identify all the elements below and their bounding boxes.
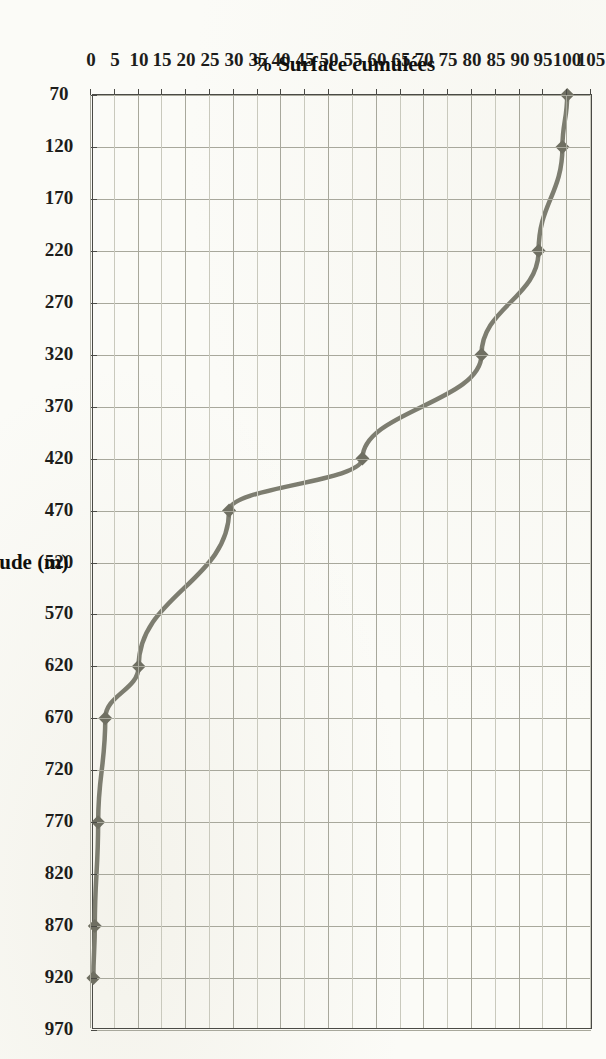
gridline-horizontal [138,95,139,1028]
y-axis-tick [519,89,520,95]
x-tick-label: 220 [33,239,85,261]
x-axis-tick [91,95,97,96]
x-axis-tick [91,199,97,200]
y-axis-tick [161,89,162,95]
x-axis-tick [91,666,97,667]
x-axis-tick [91,822,97,823]
x-axis-title: Altitude (m) [0,549,134,574]
gridline-horizontal [542,95,543,1028]
x-axis-tick [91,718,97,719]
y-axis-tick [185,89,186,95]
y-axis-tick [566,89,567,95]
y-axis-tick [114,89,115,95]
y-tick-label: 105 [569,49,606,71]
x-tick-label: 320 [33,343,85,365]
x-tick-label: 770 [33,810,85,832]
y-axis-tick [280,89,281,95]
gridline-horizontal [185,95,186,1028]
x-axis-tick [91,1030,97,1031]
gridline-vertical [93,718,591,719]
gridline-horizontal [447,95,448,1028]
x-axis-tick [91,614,97,615]
y-axis-tick [447,89,448,95]
gridline-horizontal [233,95,234,1028]
x-tick-label: 370 [33,395,85,417]
series-line [93,95,567,978]
y-axis-tick [90,89,91,95]
y-axis-tick [352,89,353,95]
y-axis-tick [590,89,591,95]
x-tick-label: 570 [33,602,85,624]
x-tick-label: 470 [33,499,85,521]
gridline-horizontal [352,95,353,1028]
y-axis-title: % Surface cumulées [214,52,474,77]
x-tick-label: 970 [33,1018,85,1040]
y-axis-tick [138,89,139,95]
x-axis-tick [91,459,97,460]
rotated-chart-wrapper: 7012017022027032037042047052057062067072… [0,0,606,1059]
y-axis-tick [542,89,543,95]
x-axis-tick [91,407,97,408]
y-axis-tick [233,89,234,95]
x-axis-tick [91,511,97,512]
x-axis-tick [91,926,97,927]
gridline-vertical [93,874,591,875]
x-tick-label: 920 [33,966,85,988]
gridline-vertical [93,199,591,200]
x-tick-label: 70 [33,83,85,105]
gridline-vertical [93,614,591,615]
x-tick-label: 870 [33,914,85,936]
gridline-horizontal [566,95,567,1028]
x-axis-tick [91,770,97,771]
gridline-horizontal [280,95,281,1028]
gridline-horizontal [400,95,401,1028]
x-tick-label: 170 [33,187,85,209]
x-tick-label: 270 [33,291,85,313]
y-axis-tick [209,89,210,95]
y-axis-tick [257,89,258,95]
gridline-horizontal [161,95,162,1028]
gridline-horizontal [304,95,305,1028]
gridline-horizontal [471,95,472,1028]
x-axis-tick [91,251,97,252]
y-axis-tick [328,89,329,95]
gridline-vertical [93,147,591,148]
x-tick-label: 670 [33,706,85,728]
gridline-vertical [93,1030,591,1031]
gridline-horizontal [590,95,591,1028]
gridline-vertical [93,511,591,512]
gridline-vertical [93,770,591,771]
gridline-horizontal [209,95,210,1028]
x-axis-tick [91,874,97,875]
plot-area [92,94,592,1029]
x-tick-label: 720 [33,758,85,780]
gridline-horizontal [328,95,329,1028]
gridline-vertical [93,303,591,304]
gridline-vertical [93,978,591,979]
gridline-vertical [93,926,591,927]
y-axis-tick [400,89,401,95]
gridline-vertical [93,355,591,356]
y-axis-tick [423,89,424,95]
gridline-vertical [93,563,591,564]
x-axis-tick [91,978,97,979]
x-tick-label: 420 [33,447,85,469]
chart-figure: 7012017022027032037042047052057062067072… [0,0,606,1059]
gridline-vertical [93,95,591,96]
gridline-vertical [93,407,591,408]
gridline-vertical [93,459,591,460]
x-axis-tick [91,147,97,148]
y-axis-tick [376,89,377,95]
gridline-horizontal [376,95,377,1028]
gridline-vertical [93,822,591,823]
x-tick-label: 120 [33,135,85,157]
gridline-vertical [93,251,591,252]
gridline-vertical [93,666,591,667]
gridline-horizontal [519,95,520,1028]
gridline-horizontal [257,95,258,1028]
gridline-horizontal [423,95,424,1028]
gridline-horizontal [495,95,496,1028]
y-axis-tick [495,89,496,95]
x-axis-tick [91,303,97,304]
y-axis-tick [304,89,305,95]
